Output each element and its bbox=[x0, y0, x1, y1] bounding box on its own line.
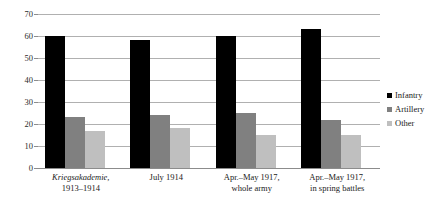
y-tick-label-50: 50 bbox=[5, 54, 33, 63]
y-tick-mark-50 bbox=[34, 58, 38, 59]
bar-other-0 bbox=[85, 131, 105, 168]
y-tick-label-60: 60 bbox=[5, 32, 33, 41]
y-tick-mark-30 bbox=[34, 102, 38, 103]
y-tick-mark-60 bbox=[34, 36, 38, 37]
y-tick-mark-20 bbox=[34, 124, 38, 125]
axis-baseline bbox=[38, 168, 380, 169]
y-tick-mark-40 bbox=[34, 80, 38, 81]
bar-group bbox=[301, 14, 361, 168]
legend-label: Infantry bbox=[395, 91, 422, 100]
y-tick-label-40: 40 bbox=[5, 76, 33, 85]
bar-group bbox=[130, 14, 190, 168]
bar-infantry-2 bbox=[216, 36, 236, 168]
y-tick-mark-10 bbox=[34, 146, 38, 147]
x-axis-category-label: Apr.–May 1917,in spring battles bbox=[281, 172, 395, 194]
bar-chart: 706050403020100 Kriegsakademie,1913–1914… bbox=[0, 0, 443, 218]
legend-swatch-icon bbox=[387, 121, 392, 126]
y-tick-label-20: 20 bbox=[5, 120, 33, 129]
bar-artillery-1 bbox=[150, 115, 170, 168]
y-tick-mark-0 bbox=[34, 168, 38, 169]
bar-artillery-0 bbox=[65, 117, 85, 168]
chart-legend: InfantryArtilleryOther bbox=[387, 88, 443, 130]
category-label-line1: Apr.–May 1917, bbox=[281, 172, 395, 183]
category-label-line2: in spring battles bbox=[281, 183, 395, 194]
legend-swatch-icon bbox=[387, 93, 392, 98]
bar-group bbox=[45, 14, 105, 168]
bar-infantry-3 bbox=[301, 29, 321, 168]
y-tick-label-70: 70 bbox=[5, 10, 33, 19]
bar-infantry-1 bbox=[130, 40, 150, 168]
bar-infantry-0 bbox=[45, 36, 65, 168]
bar-artillery-2 bbox=[236, 113, 256, 168]
legend-item-artillery[interactable]: Artillery bbox=[387, 102, 443, 116]
legend-item-infantry[interactable]: Infantry bbox=[387, 88, 443, 102]
bar-other-1 bbox=[170, 128, 190, 168]
bar-artillery-3 bbox=[321, 120, 341, 168]
y-tick-label-10: 10 bbox=[5, 142, 33, 151]
legend-swatch-icon bbox=[387, 107, 392, 112]
legend-item-other[interactable]: Other bbox=[387, 116, 443, 130]
legend-label: Other bbox=[395, 119, 414, 128]
legend-label: Artillery bbox=[395, 105, 424, 114]
bar-other-3 bbox=[341, 135, 361, 168]
category-label-line2: 1913–1914 bbox=[24, 183, 138, 194]
plot-area bbox=[38, 14, 380, 168]
y-tick-mark-70 bbox=[34, 14, 38, 15]
bar-other-2 bbox=[256, 135, 276, 168]
bar-group bbox=[216, 14, 276, 168]
y-tick-label-30: 30 bbox=[5, 98, 33, 107]
